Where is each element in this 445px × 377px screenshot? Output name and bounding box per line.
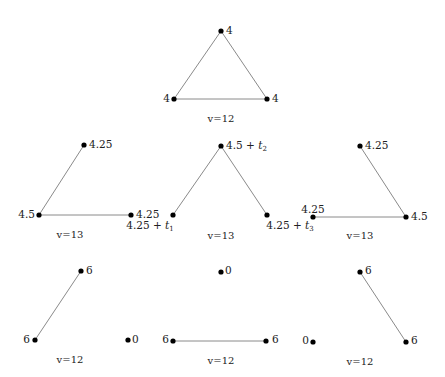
graph-node: [171, 96, 176, 101]
graph-edge: [174, 31, 221, 99]
graph-node: [170, 212, 175, 217]
graph-diagram: 4444.254.54.254.5 + t24.25 + t14.25 + t3…: [0, 0, 445, 377]
node-weight-label: 4.5 + t2: [226, 139, 267, 153]
node-weight-label: 6: [162, 333, 169, 345]
graph-node: [264, 212, 269, 217]
graph-node: [125, 337, 130, 342]
panel-caption: v=13: [346, 230, 374, 241]
panel-caption: v=12: [346, 356, 374, 367]
graph-edge: [360, 146, 406, 217]
graph-node: [32, 337, 37, 342]
graph-node: [357, 269, 362, 274]
graph-node: [310, 339, 315, 344]
graph-node: [81, 142, 86, 147]
node-weight-label: 4.25: [301, 203, 324, 215]
graph-edge: [221, 31, 267, 99]
graph-node: [310, 214, 315, 219]
graph-node: [78, 268, 83, 273]
graph-edge: [35, 271, 81, 340]
panel-caption: v=12: [207, 113, 235, 124]
node-weight-label: 4.5: [411, 210, 428, 222]
captions-layer: v=12v=13v=13v=13v=12v=12v=12: [56, 113, 374, 367]
edges-layer: [35, 31, 406, 342]
node-weight-label: 4: [163, 92, 170, 104]
graph-node: [218, 143, 223, 148]
graph-edge: [39, 145, 84, 215]
panel-caption: v=12: [56, 354, 84, 365]
graph-node: [264, 96, 269, 101]
node-weight-label: 0: [302, 334, 309, 346]
node-weight-label: 0: [225, 264, 232, 276]
graph-edge: [360, 272, 406, 342]
node-weight-label: 4: [226, 24, 233, 36]
node-weight-label: 4: [272, 92, 279, 104]
node-weight-label: 4.25 + t1: [126, 219, 174, 233]
graph-edge: [221, 146, 267, 215]
node-weight-label: 6: [23, 333, 30, 345]
graph-node: [263, 338, 268, 343]
panel-caption: v=13: [207, 230, 235, 241]
labels-layer: 4444.254.54.254.5 + t24.25 + t14.25 + t3…: [18, 24, 427, 346]
graph-node: [170, 338, 175, 343]
graph-node: [403, 214, 408, 219]
node-weight-label: 4.5: [18, 208, 35, 220]
node-weight-label: 6: [272, 333, 279, 345]
nodes-layer: [32, 28, 408, 344]
node-weight-label: 4.25: [365, 139, 388, 151]
graph-node: [36, 212, 41, 217]
node-weight-label: 6: [411, 334, 418, 346]
panel-caption: v=13: [56, 229, 84, 240]
node-weight-label: 4.25 + t3: [266, 219, 314, 233]
panel-caption: v=12: [207, 355, 235, 366]
graph-node: [403, 339, 408, 344]
node-weight-label: 4.25: [89, 138, 112, 150]
graph-node: [218, 28, 223, 33]
graph-node: [218, 269, 223, 274]
node-weight-label: 6: [365, 264, 372, 276]
graph-edge: [173, 146, 221, 215]
graph-node: [128, 212, 133, 217]
node-weight-label: 6: [86, 264, 93, 276]
node-weight-label: 0: [132, 333, 139, 345]
graph-node: [357, 143, 362, 148]
